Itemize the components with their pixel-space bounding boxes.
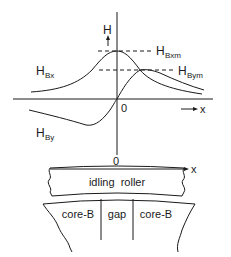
- hbym-label-sub: Bym: [187, 71, 203, 80]
- idling-roller-label: idling roller: [89, 176, 146, 188]
- hby-label-sub: By: [45, 133, 54, 142]
- roller-left-break: [48, 168, 52, 196]
- diagram-canvas: H x 0 H Bx H By H Bxm H Bym 0 x idling r…: [0, 0, 231, 257]
- core-right-break: [177, 204, 195, 252]
- hbx-label-sub: Bx: [45, 71, 54, 80]
- core-b-right-label: core-B: [140, 208, 172, 220]
- h-axis-label: H: [103, 23, 112, 37]
- core-top-edge: [43, 200, 195, 204]
- hbxm-label-main: H: [156, 44, 165, 58]
- head-x-arrow-head-icon: [184, 167, 189, 171]
- x-arrow-head-icon: [193, 107, 198, 111]
- roller-bottom-edge: [52, 193, 182, 196]
- head-origin-label: 0: [113, 155, 119, 167]
- magnetic-field-diagram: H x 0 H Bx H By H Bxm H Bym 0 x idling r…: [0, 0, 231, 257]
- hbxm-label-sub: Bxm: [165, 51, 181, 60]
- gap-label: gap: [108, 208, 126, 220]
- origin-label: 0: [121, 102, 127, 114]
- core-b-left-label: core-B: [62, 208, 94, 220]
- x-axis-label: x: [200, 103, 206, 115]
- hbym-label-main: H: [178, 64, 187, 78]
- hby-label-main: H: [36, 126, 45, 140]
- roller-right-break: [182, 168, 185, 196]
- hbx-label-main: H: [36, 64, 45, 78]
- head-x-label: x: [191, 163, 197, 175]
